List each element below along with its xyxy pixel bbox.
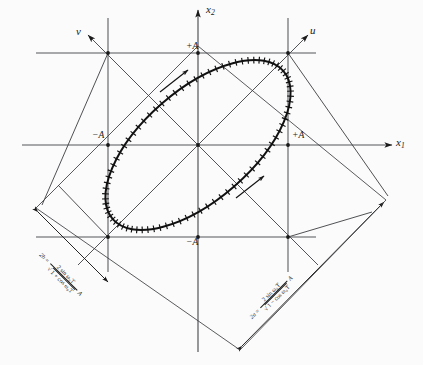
tick-label-x2-positive: +A: [186, 42, 198, 52]
axis-label-u: u: [310, 25, 316, 36]
tick-label-x1-negative: −A: [92, 131, 104, 141]
phase-plane-figure: [0, 0, 423, 365]
tick-label-x2-negative: −A: [186, 238, 198, 248]
diamond-outline: [36, 46, 386, 350]
direction-arrows: [160, 70, 264, 198]
tick-label-x1-positive: +A: [292, 131, 304, 141]
cartesian-axes: [22, 10, 392, 352]
axis-label-v: v: [76, 26, 81, 37]
axis-label-x1: x1: [396, 137, 405, 150]
major-dim-equals: =: [254, 308, 261, 315]
axis-label-x2: x2: [206, 4, 215, 17]
